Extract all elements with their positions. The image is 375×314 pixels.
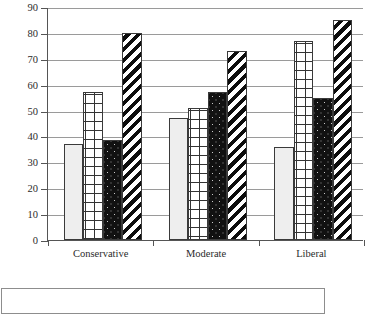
y-axis-tick xyxy=(41,215,48,216)
bar xyxy=(313,98,333,240)
y-axis-tick xyxy=(41,34,48,35)
y-axis-tick-label: 0 xyxy=(0,236,38,247)
y-axis-tick xyxy=(41,112,48,113)
y-axis-tick-label: 60 xyxy=(0,80,38,91)
y-axis-tick-label: 80 xyxy=(0,29,38,40)
bar xyxy=(169,118,189,240)
y-axis-tick xyxy=(41,8,48,9)
y-axis-tick-label: 10 xyxy=(0,210,38,221)
y-axis-tick xyxy=(41,60,48,61)
bar xyxy=(274,147,294,240)
y-axis-tick xyxy=(41,189,48,190)
plot-area: 0102030405060708090ConservativeModerateL… xyxy=(47,8,363,241)
x-axis-tick xyxy=(259,240,260,246)
bar xyxy=(294,41,314,240)
y-axis-tick xyxy=(41,163,48,164)
x-axis-category-label: Liberal xyxy=(296,249,326,260)
bar-group xyxy=(48,8,153,240)
bar xyxy=(333,20,353,240)
y-axis-tick xyxy=(41,86,48,87)
y-axis-tick-label: 20 xyxy=(0,184,38,195)
bar xyxy=(103,140,123,240)
y-axis-tick-label: 40 xyxy=(0,132,38,143)
bar xyxy=(83,92,103,240)
bar-group xyxy=(259,8,364,240)
x-axis-category-label: Moderate xyxy=(186,249,226,260)
y-axis-tick-label: 30 xyxy=(0,158,38,169)
x-axis-tick xyxy=(48,240,49,246)
y-axis-tick-label: 90 xyxy=(0,3,38,14)
bar xyxy=(64,144,84,240)
y-axis-tick xyxy=(41,241,48,242)
x-axis-tick xyxy=(153,240,154,246)
plot-inner: 0102030405060708090ConservativeModerateL… xyxy=(48,8,363,240)
y-axis-tick xyxy=(41,137,48,138)
y-axis-tick-label: 50 xyxy=(0,106,38,117)
bar-group xyxy=(153,8,258,240)
bar xyxy=(188,108,208,240)
bar xyxy=(208,92,228,240)
bar xyxy=(227,51,247,240)
legend-box xyxy=(1,288,325,314)
x-axis-tick xyxy=(364,240,365,246)
y-axis-tick-label: 70 xyxy=(0,55,38,66)
x-axis-category-label: Conservative xyxy=(73,249,128,260)
bar xyxy=(122,33,142,240)
